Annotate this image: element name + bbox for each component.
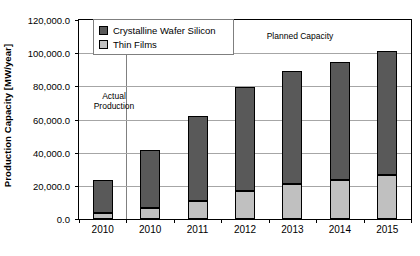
bar-stack (282, 71, 302, 219)
x-axis-tick-mark (221, 219, 222, 223)
x-axis-tick-label: 2015 (376, 224, 398, 235)
bar-stack (93, 180, 113, 219)
actual-production-annotation: Actual Production (82, 92, 146, 112)
bar-stack (140, 150, 160, 219)
y-axis-tick-label: 20,000.0 (33, 180, 70, 191)
legend-swatch-icon (99, 40, 108, 49)
x-axis-tick-mark (364, 219, 365, 223)
bar-segment-crystalline-wafer-silicon (188, 116, 208, 201)
x-axis-tick-mark (174, 219, 175, 223)
bar-segment-crystalline-wafer-silicon (140, 150, 160, 208)
bar-segment-thin-films (93, 213, 113, 219)
legend-item-label: Thin Films (113, 39, 157, 50)
y-axis-tick-mark (75, 186, 79, 187)
y-axis-tick-mark (75, 53, 79, 54)
production-capacity-bar-chart: Production Capacity [MW/year] 0.020,000.… (0, 0, 420, 256)
y-axis-tick-mark (75, 153, 79, 154)
x-axis-tick-mark (126, 219, 127, 223)
y-axis-tick-mark (75, 120, 79, 121)
x-axis-tick-mark (316, 219, 317, 223)
y-axis-tick-mark (75, 20, 79, 21)
x-axis-tick-label: 2014 (329, 224, 351, 235)
chart-legend: Crystalline Wafer SiliconThin Films (93, 19, 234, 55)
x-axis-tick-label: 2010 (139, 224, 161, 235)
bar-segment-crystalline-wafer-silicon (330, 62, 350, 180)
y-axis-tick-labels: 0.020,000.040,000.060,000.080,000.0100,0… (16, 0, 74, 230)
y-axis-tick-label: 60,000.0 (33, 114, 70, 125)
bar-stack (377, 51, 397, 219)
y-axis-tick-label: 100,000.0 (28, 48, 70, 59)
bar-stack (330, 62, 350, 219)
bar-segment-thin-films (188, 201, 208, 219)
y-axis-tick-label: 80,000.0 (33, 81, 70, 92)
x-axis-tick-mark (79, 219, 80, 223)
y-axis-title: Production Capacity [MW/year] (0, 0, 16, 230)
y-axis-tick-label: 0.0 (57, 214, 70, 225)
x-axis-tick-label: 2012 (234, 224, 256, 235)
x-axis-tick-labels: 2010201020112012201320142015 (78, 224, 412, 242)
planned-capacity-annotation: Planned Capacity (238, 32, 362, 42)
bar-segment-crystalline-wafer-silicon (377, 51, 397, 175)
bar-stack (188, 116, 208, 219)
x-axis-tick-mark (269, 219, 270, 223)
bar-stack (235, 87, 255, 219)
legend-swatch-icon (99, 26, 108, 35)
y-axis-tick-mark (75, 86, 79, 87)
bar-segment-thin-films (140, 208, 160, 219)
bar-segment-crystalline-wafer-silicon (93, 180, 113, 213)
legend-item-label: Crystalline Wafer Silicon (113, 25, 216, 36)
x-axis-tick-mark (411, 219, 412, 223)
legend-item: Crystalline Wafer Silicon (99, 23, 228, 37)
bar-segment-thin-films (235, 191, 255, 219)
x-axis-tick-label: 2010 (92, 224, 114, 235)
bar-segment-crystalline-wafer-silicon (235, 87, 255, 191)
bar-segment-thin-films (377, 175, 397, 219)
y-axis-tick-label: 120,000.0 (28, 15, 70, 26)
y-axis-tick-label: 40,000.0 (33, 147, 70, 158)
bar-segment-thin-films (330, 180, 350, 219)
x-axis-tick-label: 2013 (281, 224, 303, 235)
bar-segment-crystalline-wafer-silicon (282, 71, 302, 185)
x-axis-tick-label: 2011 (187, 224, 209, 235)
legend-item: Thin Films (99, 37, 228, 51)
bar-segment-thin-films (282, 184, 302, 219)
y-axis-title-label: Production Capacity [MW/year] (3, 43, 14, 186)
